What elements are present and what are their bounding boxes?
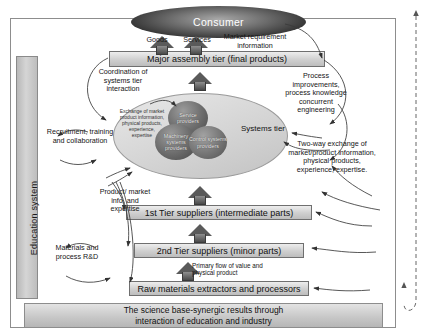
diagram-canvas: Education system Consumer Major assembly… — [0, 0, 443, 334]
education-system-label: Education system — [23, 148, 45, 288]
market-pull-arrow-bottom — [401, 282, 406, 288]
product-market-info-label: Product/ market info. and expertise — [98, 188, 152, 214]
market-pull-arrow-top — [413, 10, 419, 16]
consumer-label: Consumer — [193, 16, 244, 28]
control-systems-providers-circle: Control systems providers — [189, 126, 227, 159]
second-tier-suppliers-box: 2nd Tier suppliers (minor parts) — [134, 243, 304, 258]
market-requirement-information-label: Market requirement information — [222, 33, 288, 50]
process-improvements-label: Process improvements, process knowledge … — [283, 72, 349, 115]
science-base-bar: The science base-synergic results throug… — [24, 303, 383, 328]
coordination-of-systems-tier-label: Coordination of systems tier interaction — [92, 68, 154, 94]
major-assembly-tier-box: Major assembly tier (final products) — [109, 51, 325, 67]
first-tier-suppliers-box: 1st Tier suppliers (intermediate parts) — [126, 205, 312, 220]
materials-and-process-rd-label: Materials and process R&D — [42, 244, 112, 261]
two-way-exchange-label: Two-way exchange of market/product infor… — [286, 140, 378, 174]
goods-label: Goods — [140, 36, 174, 45]
primary-flow-of-value-label: Primary flow of value and physical produ… — [192, 262, 268, 277]
education-system-bar: Education system — [16, 56, 38, 299]
science-base-line2: interaction of education and industry — [124, 316, 284, 327]
services-label: Services — [176, 36, 218, 45]
recruitment-training-collaboration-label: Recruitment, training and collaboration — [42, 128, 118, 145]
science-base-line1: The science base-synergic results throug… — [124, 305, 284, 316]
raw-materials-box: Raw materials extractors and processors — [129, 281, 309, 296]
systems-tier-label: Systems tier — [240, 124, 286, 134]
